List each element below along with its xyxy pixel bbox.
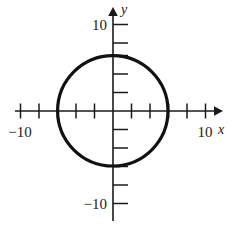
x-axis-left-label: −10 bbox=[8, 124, 31, 140]
y-axis-bottom-label: −10 bbox=[84, 196, 107, 212]
y-axis-name-label: y bbox=[119, 2, 128, 17]
x-axis-right-label: 10 bbox=[198, 124, 213, 140]
graph-figure: −10 10 10 −10 y x bbox=[0, 0, 235, 227]
y-axis-arrowhead bbox=[108, 7, 118, 16]
coordinate-plane-svg: −10 10 10 −10 y x bbox=[0, 0, 235, 227]
x-axis-name-label: x bbox=[217, 122, 225, 137]
y-axis-top-label: 10 bbox=[92, 17, 107, 33]
x-axis-arrowhead bbox=[214, 106, 223, 116]
